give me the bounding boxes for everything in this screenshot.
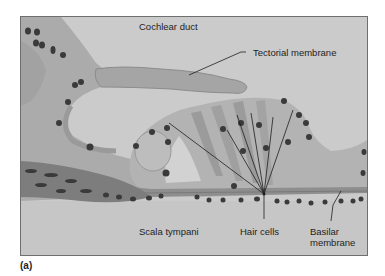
label-tectorial-membrane: Tectorial membrane [253,47,336,58]
label-scala-tympani: Scala tympani [139,226,199,237]
micrograph-figure: Cochlear duct Tectorial membrane Scala t… [20,16,368,256]
panel-label: (a) [20,260,32,271]
label-basilar-membrane-line1: Basilar [310,226,339,237]
label-basilar-membrane-line2: membrane [310,237,355,248]
label-hair-cells: Hair cells [240,226,279,237]
label-cochlear-duct: Cochlear duct [139,21,198,32]
